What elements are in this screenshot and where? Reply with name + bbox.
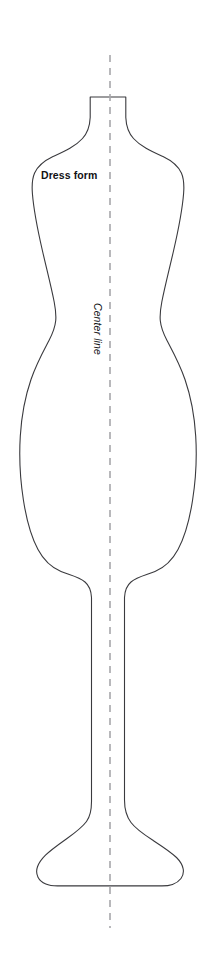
dress-form-diagram: Dress form Center line <box>0 0 213 971</box>
label-dress-form: Dress form <box>41 169 97 181</box>
dress-form-drawing <box>0 0 213 971</box>
label-center-line: Center line <box>92 303 104 355</box>
